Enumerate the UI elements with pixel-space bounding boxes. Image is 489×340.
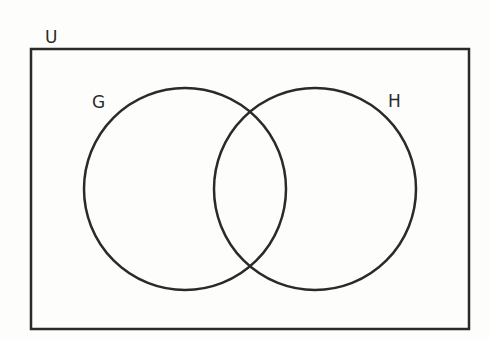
universe-rectangle [31, 49, 469, 329]
universe-label: U [45, 27, 57, 47]
set-g-label: G [92, 92, 105, 112]
set-h-circle [214, 88, 416, 290]
set-g-circle [84, 88, 286, 290]
venn-diagram: U G H [0, 0, 489, 340]
set-h-label: H [388, 91, 401, 111]
